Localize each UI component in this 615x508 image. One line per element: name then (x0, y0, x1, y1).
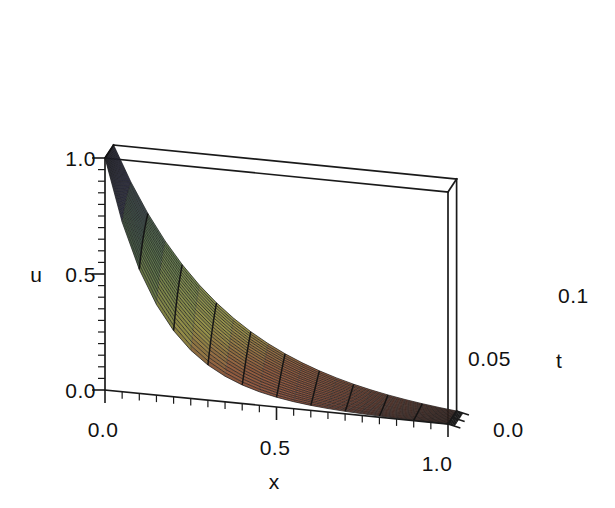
axis-labels: 1.0 0.5 0.0 u 0.0 0.5 1.0 x 0.0 0.05 0.1… (30, 147, 589, 493)
t-tick-label-0: 0.0 (493, 418, 524, 441)
surface-plot-figure: 1.0 0.5 0.0 u 0.0 0.5 1.0 x 0.0 0.05 0.1… (0, 0, 615, 508)
t-tick-label-01: 0.1 (558, 284, 589, 307)
t-tick-label-005: 0.05 (468, 347, 511, 370)
x-tick-label-1: 1.0 (422, 452, 453, 475)
x-axis-name: x (269, 470, 280, 493)
t-axis-name: t (556, 349, 562, 372)
x-tick-label-05: 0.5 (260, 436, 291, 459)
x-tick-label-0: 0.0 (88, 418, 119, 441)
u-tick-label-0: 0.0 (65, 379, 96, 402)
u-tick-label-1: 1.0 (65, 147, 96, 170)
plot-canvas: 1.0 0.5 0.0 u 0.0 0.5 1.0 x 0.0 0.05 0.1… (0, 0, 615, 508)
u-axis-name: u (30, 263, 42, 286)
u-tick-label-05: 0.5 (65, 263, 96, 286)
